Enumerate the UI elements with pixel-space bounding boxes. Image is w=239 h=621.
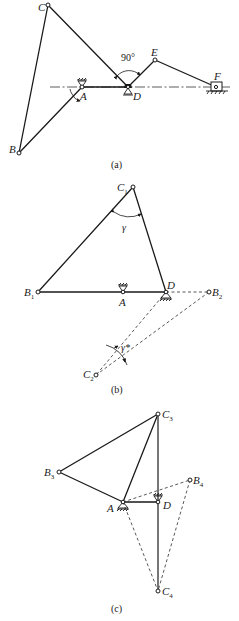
caption-a: (a): [111, 159, 122, 171]
crank-rotation-arrow: [72, 94, 80, 101]
link-ab3: [59, 472, 123, 502]
link-bc: [19, 5, 48, 153]
joint-c1: [131, 185, 135, 189]
link-ab4-dashed: [123, 480, 190, 502]
caption-b: (b): [111, 384, 123, 396]
label-c2: C2: [83, 368, 94, 383]
label-d: D: [132, 90, 141, 102]
gamma-arc: [114, 212, 141, 217]
link-dc2-dashed: [96, 292, 166, 375]
label-a: A: [118, 296, 126, 308]
joint-a: [121, 500, 125, 504]
gamma-star-arrow-2: [124, 358, 125, 362]
label-d: D: [162, 499, 171, 511]
joint-b1: [36, 290, 40, 294]
label-b: B: [9, 143, 16, 155]
label-b1: B1: [24, 286, 35, 301]
link-ac4-dashed: [123, 502, 158, 591]
caption-c: (c): [111, 603, 122, 615]
joint-a: [80, 85, 84, 89]
label-c1: C1: [117, 181, 128, 196]
panel-a: 90°: [9, 1, 232, 171]
joint-e: [153, 58, 157, 62]
crank-rotation-arc: [70, 89, 72, 94]
joint-c: [46, 3, 50, 7]
joint-f: [214, 85, 217, 88]
link-ab: [19, 87, 82, 153]
link-b1c1: [38, 187, 133, 292]
label-b3: B3: [44, 466, 55, 481]
mechanism-figure: 90°: [0, 0, 239, 621]
label-b4: B4: [193, 474, 204, 489]
link-ef: [155, 60, 216, 87]
panel-c: C3 B3 A D B4 C4 (c): [44, 408, 204, 615]
joint-a: [121, 290, 125, 294]
label-a: A: [106, 502, 114, 514]
link-de: [128, 60, 155, 87]
label-c: C: [38, 1, 46, 13]
joint-c3: [156, 412, 160, 416]
joint-b3: [57, 470, 61, 474]
link-cd: [48, 5, 128, 87]
link-c1d: [133, 187, 166, 292]
panel-b: γ γ* C1 B1 A D: [24, 181, 223, 396]
angle-90-label: 90°: [121, 52, 135, 63]
joint-d: [156, 500, 160, 504]
label-a: A: [79, 90, 87, 102]
joint-c4: [156, 589, 160, 593]
joint-b4: [188, 478, 192, 482]
label-b2: B2: [212, 286, 223, 301]
right-angle-arc: [117, 71, 140, 76]
label-d: D: [166, 279, 175, 291]
link-ac3: [123, 414, 158, 502]
label-c3: C3: [162, 408, 173, 423]
link-b2c2-dashed: [96, 292, 209, 375]
label-e: E: [150, 46, 158, 58]
gamma-star-label: γ*: [121, 342, 130, 353]
label-c4: C4: [162, 585, 173, 600]
joint-d: [126, 85, 129, 88]
joint-b: [17, 151, 21, 155]
gamma-star-arrow-1: [114, 346, 118, 348]
link-b3c3: [59, 414, 158, 472]
joint-c2: [94, 373, 98, 377]
label-f: F: [213, 70, 221, 82]
joint-b2: [207, 290, 211, 294]
gamma-label: γ: [122, 222, 127, 233]
link-b4c4-dashed: [158, 480, 190, 591]
